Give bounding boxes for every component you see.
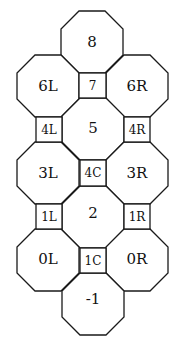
label-7: 7 xyxy=(89,79,97,93)
label-1C: 1C xyxy=(85,254,102,268)
square-1C: 1C xyxy=(80,248,106,273)
label-0L: 0L xyxy=(38,250,58,268)
label-8: 8 xyxy=(87,33,97,51)
label-4R: 4R xyxy=(129,123,147,137)
label-5: 5 xyxy=(88,119,98,137)
square-4L: 4L xyxy=(36,117,62,142)
label-3L: 3L xyxy=(38,164,58,182)
octagon-minus-1: -1 xyxy=(62,273,124,335)
square-1L: 1L xyxy=(36,204,62,229)
square-4R: 4R xyxy=(124,117,150,142)
label-0R: 0R xyxy=(127,250,149,268)
square-4C: 4C xyxy=(80,160,106,186)
label-6L: 6L xyxy=(38,77,58,95)
label-1L: 1L xyxy=(41,210,57,224)
label-2: 2 xyxy=(88,204,98,222)
label-4C: 4C xyxy=(85,166,102,180)
octagon-square-tiling-diagram: 8 6L 6R 5 3L 3R 2 0L 0R -1 xyxy=(0,0,182,344)
label-6R: 6R xyxy=(127,77,149,95)
octagon-0L: 0L xyxy=(17,229,79,291)
label-minus-1: -1 xyxy=(86,290,101,308)
label-1R: 1R xyxy=(129,210,147,224)
label-3R: 3R xyxy=(127,164,149,182)
square-7: 7 xyxy=(79,73,106,98)
octagon-3L: 3L xyxy=(17,142,79,204)
label-4L: 4L xyxy=(41,123,57,137)
square-1R: 1R xyxy=(124,204,150,229)
